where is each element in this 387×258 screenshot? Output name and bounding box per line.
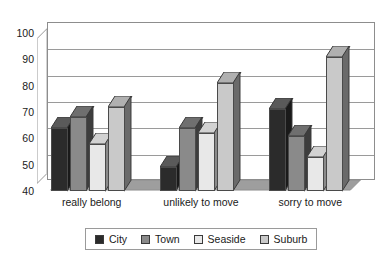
bar-city-really-belong bbox=[51, 128, 68, 191]
bar-front-face bbox=[269, 109, 286, 191]
bar-city-sorry-to-move bbox=[269, 109, 286, 191]
bar-front-face bbox=[288, 136, 305, 191]
bar-front-face bbox=[108, 107, 125, 191]
legend-swatch-icon bbox=[95, 235, 104, 244]
bar-front-face bbox=[51, 128, 68, 191]
x-axis-tick-label: unlikely to move bbox=[146, 196, 255, 208]
bar-front-face bbox=[307, 157, 324, 191]
y-axis-tick-label: 40 bbox=[6, 186, 34, 196]
x-axis-tick-label: really belong bbox=[37, 196, 146, 208]
bar-front-face bbox=[217, 83, 234, 191]
bar-town-unlikely-to-move bbox=[179, 128, 196, 191]
bar-side-face bbox=[342, 46, 350, 192]
bar-front-face bbox=[198, 133, 215, 191]
bar-suburb-really-belong bbox=[108, 107, 125, 191]
bar-chart: 405060708090100 really belongunlikely to… bbox=[0, 0, 387, 258]
bar-town-really-belong bbox=[70, 117, 87, 191]
y-axis: 405060708090100 bbox=[4, 0, 34, 258]
y-axis-tick-label: 100 bbox=[6, 28, 34, 38]
bar-town-sorry-to-move bbox=[288, 136, 305, 191]
legend-item-seaside[interactable]: Seaside bbox=[194, 234, 246, 245]
x-axis: really belongunlikely to movesorry to mo… bbox=[37, 196, 377, 212]
bar-front-face bbox=[70, 117, 87, 191]
bar-front-face bbox=[179, 128, 196, 191]
x-axis-tick-label: sorry to move bbox=[256, 196, 365, 208]
bar-series-group bbox=[37, 22, 375, 191]
bar-side-face bbox=[233, 72, 241, 192]
bar-suburb-unlikely-to-move bbox=[217, 83, 234, 191]
legend-item-city[interactable]: City bbox=[95, 234, 127, 245]
bar-front-face bbox=[160, 167, 177, 191]
legend-item-suburb[interactable]: Suburb bbox=[260, 234, 308, 245]
legend-label: Seaside bbox=[208, 234, 246, 245]
bar-side-face bbox=[124, 96, 132, 192]
y-axis-tick-label: 50 bbox=[6, 160, 34, 170]
bar-seaside-really-belong bbox=[89, 144, 106, 191]
legend-swatch-icon bbox=[194, 235, 203, 244]
legend-label: Town bbox=[155, 234, 180, 245]
plot-area bbox=[37, 22, 375, 190]
legend-label: Suburb bbox=[274, 234, 308, 245]
legend-label: City bbox=[109, 234, 127, 245]
y-axis-tick-label: 70 bbox=[6, 107, 34, 117]
bar-suburb-sorry-to-move bbox=[326, 57, 343, 191]
bar-front-face bbox=[326, 57, 343, 191]
bar-seaside-sorry-to-move bbox=[307, 157, 324, 191]
y-axis-tick-label: 90 bbox=[6, 54, 34, 64]
y-axis-tick-label: 60 bbox=[6, 133, 34, 143]
chart-legend: CityTownSeasideSuburb bbox=[85, 228, 317, 250]
bar-city-unlikely-to-move bbox=[160, 167, 177, 191]
y-axis-tick-label: 80 bbox=[6, 81, 34, 91]
bar-front-face bbox=[89, 144, 106, 191]
bar-seaside-unlikely-to-move bbox=[198, 133, 215, 191]
legend-swatch-icon bbox=[141, 235, 150, 244]
legend-item-town[interactable]: Town bbox=[141, 234, 180, 245]
legend-swatch-icon bbox=[260, 235, 269, 244]
